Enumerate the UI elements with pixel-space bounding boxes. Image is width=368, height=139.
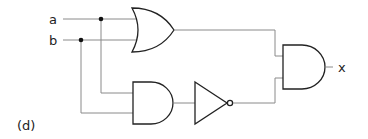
wire-a-to-and [101, 19, 133, 93]
wire-b-to-and [81, 40, 133, 113]
panel-label: (d) [17, 118, 35, 133]
and-gate-output [283, 45, 325, 89]
input-label-a: a [49, 12, 57, 27]
wire-not-to-and2 [233, 78, 283, 103]
output-label-x: x [338, 60, 346, 75]
input-label-b: b [49, 33, 57, 48]
junction-b [79, 38, 84, 43]
or-gate [132, 8, 174, 52]
junction-a [99, 17, 104, 22]
not-gate [195, 82, 227, 124]
logic-circuit-diagram: a b x (d) [0, 0, 368, 139]
wire-or-to-and2 [174, 30, 283, 56]
not-gate-bubble [227, 100, 232, 105]
and-gate-lower [133, 82, 173, 124]
